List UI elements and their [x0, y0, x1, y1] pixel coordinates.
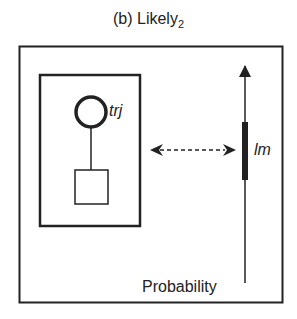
lm-highlight-bar	[242, 122, 248, 180]
diagram-canvas	[0, 0, 297, 319]
lm-label: lm	[254, 141, 271, 159]
latent-node-circle	[76, 97, 106, 127]
latent-node-label: trj	[109, 102, 122, 120]
axis-label: Probability	[142, 278, 217, 296]
observed-node-square	[75, 170, 108, 204]
